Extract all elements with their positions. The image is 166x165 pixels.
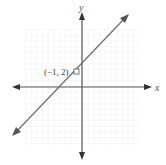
- y-axis-bottom-arrow-icon: [79, 152, 85, 160]
- y-axis-top-arrow-icon: [79, 12, 85, 20]
- x-axis-label: x: [154, 82, 160, 93]
- x-axis-left-arrow-icon: [12, 84, 20, 90]
- x-axis-right-arrow-icon: [144, 84, 152, 90]
- coordinate-plane: x y (−1, 2): [0, 0, 166, 165]
- point-label: (−1, 2): [44, 67, 69, 77]
- point-marker-open-square: [74, 69, 79, 74]
- y-axis-label: y: [78, 2, 84, 13]
